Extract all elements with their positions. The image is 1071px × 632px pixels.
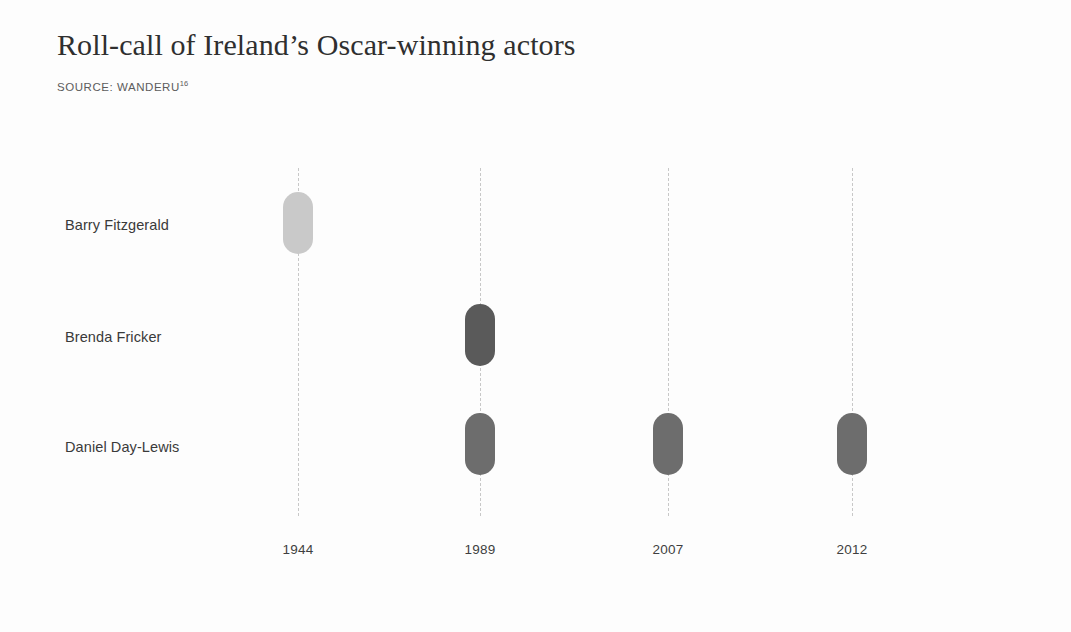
marker-daniel-day-lewis-2007[interactable] [653, 413, 683, 475]
row-label-barry-fitzgerald: Barry Fitzgerald [65, 217, 280, 233]
axis-tick-2012: 2012 [792, 542, 912, 557]
row-label-daniel-day-lewis: Daniel Day-Lewis [65, 439, 280, 455]
marker-daniel-day-lewis-2012[interactable] [837, 413, 867, 475]
marker-barry-fitzgerald-1944[interactable] [283, 192, 313, 254]
marker-brenda-fricker-1989[interactable] [465, 304, 495, 366]
axis-tick-1944: 1944 [238, 542, 358, 557]
axis-tick-1989: 1989 [420, 542, 540, 557]
plot-area: Barry Fitzgerald Brenda Fricker Daniel D… [0, 0, 1071, 632]
axis-tick-2007: 2007 [608, 542, 728, 557]
row-label-brenda-fricker: Brenda Fricker [65, 329, 280, 345]
chart-page: Roll-call of Ireland’s Oscar-winning act… [0, 0, 1071, 632]
marker-daniel-day-lewis-1989[interactable] [465, 413, 495, 475]
